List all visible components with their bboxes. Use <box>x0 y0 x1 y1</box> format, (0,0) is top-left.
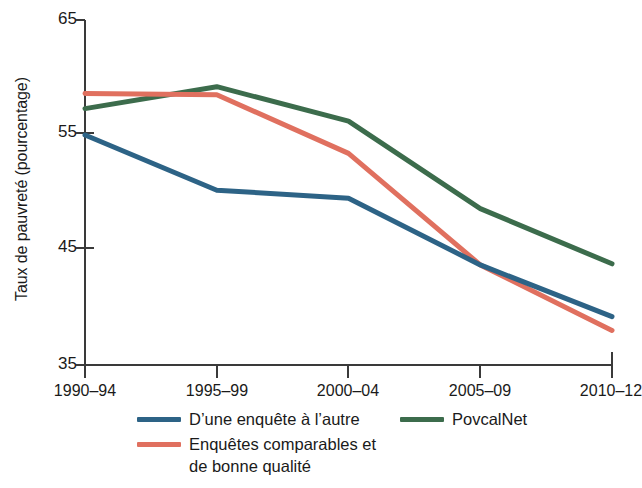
chart-legend: D’une enquête à l’autre PovcalNet Enquêt… <box>0 408 642 488</box>
legend-item-povcalnet: PovcalNet <box>400 408 527 430</box>
legend-swatch-red <box>137 442 181 447</box>
legend-label-dune-enquete-a-lautre: D’une enquête à l’autre <box>189 408 360 430</box>
x-axis-tick-label-3: 2000–04 <box>293 382 403 400</box>
legend-swatch-green <box>400 417 444 422</box>
x-axis-tick-label-4: 2005–09 <box>425 382 535 400</box>
legend-item-dune-enquete-a-lautre: D’une enquête à l’autre <box>137 408 360 430</box>
series-line-enquetes-comparables <box>85 94 612 331</box>
legend-item-enquetes-comparables: Enquêtes comparables et de bonne qualité <box>137 433 376 477</box>
legend-swatch-blue <box>137 417 181 422</box>
x-axis-tick-label-5: 2010–12 <box>556 382 642 400</box>
chart-figure: Taux de pauvreté (pourcentage) 65 55 45 … <box>0 0 642 488</box>
plot-area <box>0 0 642 400</box>
legend-label-enquetes-comparables: Enquêtes comparables et de bonne qualité <box>189 433 376 477</box>
series-line-povcalnet <box>85 87 612 264</box>
axis-lines <box>85 20 612 365</box>
legend-label-povcalnet: PovcalNet <box>452 408 527 430</box>
x-axis-tick-label-1: 1990–94 <box>30 382 140 400</box>
x-axis-tick-label-2: 1995–99 <box>162 382 272 400</box>
